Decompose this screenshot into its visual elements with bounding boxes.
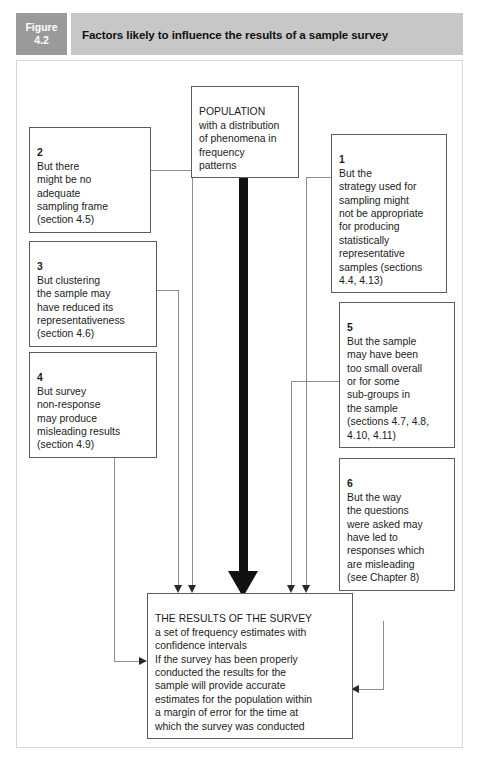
figure-label-word: Figure	[16, 21, 67, 34]
connector-1-horizontal	[306, 177, 332, 178]
node-factor-4-number: 4	[37, 372, 49, 383]
connector-5-vertical	[291, 381, 292, 585]
node-factor-6-text: But the way the questions were asked may…	[347, 492, 424, 583]
node-factor-2: 2 But there might be no adequate samplin…	[29, 127, 151, 233]
node-factor-3-number: 3	[37, 261, 49, 272]
node-population: POPULATION with a distribution of phenom…	[191, 86, 299, 178]
node-factor-6-number: 6	[347, 478, 359, 489]
node-factor-1-number: 1	[339, 154, 351, 165]
node-population-text: POPULATION with a distribution of phenom…	[199, 106, 279, 171]
figure-title: Factors likely to influence the results …	[71, 28, 388, 41]
connector-4-horizontal	[114, 661, 140, 662]
connector-2-horizontal	[151, 170, 193, 171]
connector-6-vertical	[383, 621, 384, 689]
node-factor-4-text: But survey non-response may produce misl…	[37, 386, 120, 451]
connector-4-vertical	[114, 423, 115, 661]
figure-number-tab: Figure 4.2	[16, 13, 67, 55]
connector-3-arrowhead	[174, 585, 182, 593]
connector-3-horizontal	[157, 290, 179, 291]
node-factor-6: 6 But the way the questions were asked m…	[339, 458, 455, 591]
node-factor-5-text: But the sample may have been too small o…	[347, 336, 429, 441]
node-factor-2-text: But there might be no adequate sampling …	[37, 161, 108, 226]
node-factor-1: 1 But the strategy used for sampling mig…	[331, 134, 447, 293]
node-factor-5-number: 5	[347, 322, 359, 333]
figure-page: Figure 4.2 Factors likely to influence t…	[0, 0, 479, 762]
node-factor-5: 5 But the sample may have been too small…	[339, 302, 455, 448]
connector-2-vertical	[192, 170, 193, 585]
node-results-text: THE RESULTS OF THE SURVEY a set of frequ…	[155, 613, 312, 731]
node-factor-3-text: But clustering the sample may have reduc…	[37, 275, 125, 340]
figure-title-bar: Factors likely to influence the results …	[71, 13, 463, 55]
connector-5-horizontal	[291, 381, 340, 382]
node-factor-3: 3 But clustering the sample may have red…	[29, 241, 157, 347]
main-flow-arrow-shaft	[239, 145, 248, 576]
connector-3-vertical	[178, 290, 179, 585]
node-factor-2-number: 2	[37, 147, 49, 158]
connector-2-arrowhead	[188, 585, 196, 593]
figure-label-number: 4.2	[16, 34, 67, 47]
figure-header: Figure 4.2 Factors likely to influence t…	[16, 13, 463, 55]
node-factor-4: 4 But survey non-response may produce mi…	[29, 352, 157, 458]
diagram-panel: POPULATION with a distribution of phenom…	[16, 60, 463, 748]
connector-5-arrowhead	[287, 585, 295, 593]
connector-1-arrowhead	[302, 585, 310, 593]
connector-6-horizontal	[359, 689, 384, 690]
node-factor-1-text: But the strategy used for sampling might…	[339, 168, 423, 286]
node-results: THE RESULTS OF THE SURVEY a set of frequ…	[147, 593, 353, 739]
connector-4-arrowhead	[139, 657, 147, 665]
